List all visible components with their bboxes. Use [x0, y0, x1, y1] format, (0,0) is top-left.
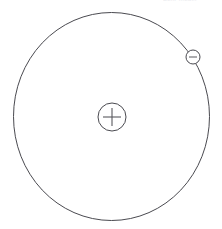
- atom-model-figure: [0, 0, 222, 229]
- atom-diagram-canvas: Bohr model: [0, 0, 222, 229]
- electron-group: [186, 50, 200, 64]
- nucleus-group: [98, 103, 126, 131]
